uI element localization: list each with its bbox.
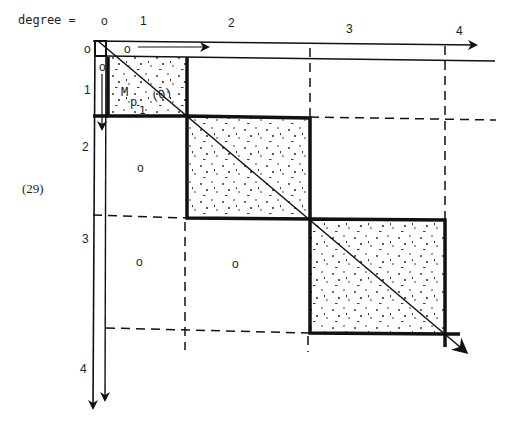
row-degree-2: 2 <box>82 140 89 154</box>
zero-mark-block-3-1: o <box>136 255 143 269</box>
row-degree-3: 3 <box>82 232 89 246</box>
col-degree-4: 4 <box>456 24 463 38</box>
row-degree-4: 4 <box>80 362 87 376</box>
block-label-M: M <box>121 85 128 99</box>
left-degree-axis-arrow <box>93 40 95 408</box>
equation-number: (29) <box>22 181 44 196</box>
block-diagonal-matrix-diagram: degree = o 1 2 3 4 o 1 2 3 4 (29) <box>0 0 511 429</box>
zero-mark-left-col: o <box>99 60 106 74</box>
block-label-p: p <box>130 95 137 109</box>
col-degree-0: o <box>101 14 108 28</box>
zero-mark-block-2-1: o <box>137 161 144 175</box>
row-degree-1: 1 <box>84 83 91 97</box>
col-degree-2: 2 <box>228 16 235 30</box>
block-label-1: 1 <box>139 104 146 117</box>
col-degree-3: 3 <box>346 22 353 36</box>
degree-label: degree = <box>18 13 76 27</box>
top-degree-axis-arrow <box>93 41 476 45</box>
diagonal-arrow <box>98 41 466 352</box>
zero-mark-top-row: o <box>124 42 131 56</box>
zero-mark-block-3-2: o <box>232 257 239 271</box>
left-inner-axis-arrow <box>105 40 106 400</box>
col-degree-1: 1 <box>140 14 147 28</box>
row-degree-0: o <box>84 42 91 56</box>
